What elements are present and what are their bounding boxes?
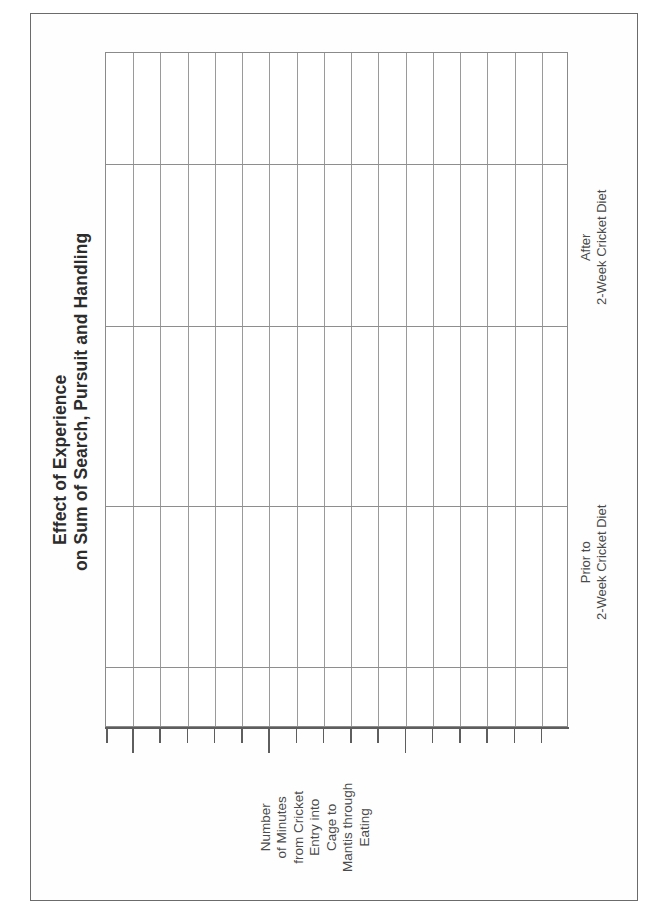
screenshot-page: Effect of Experience on Sum of Search, P…	[0, 0, 668, 920]
horizontal-gridline	[106, 667, 567, 668]
vertical-gridline	[515, 53, 516, 726]
chart-title-line-1: Effect of Experience	[50, 233, 71, 545]
value-axis-line	[105, 727, 569, 729]
chart-title-line-2: on Sum of Search, Pursuit and Handling	[71, 233, 92, 571]
value-axis-title-line-1: Number	[258, 783, 274, 872]
value-axis-title-line-4: Entry into	[307, 783, 323, 872]
axis-tick-minor	[459, 729, 461, 743]
vertical-gridline	[215, 53, 216, 726]
vertical-gridline	[160, 53, 161, 726]
category-label-prior: Prior to 2-Week Cricket Diet	[578, 505, 610, 620]
chart-title: Effect of Experience on Sum of Search, P…	[50, 233, 93, 545]
horizontal-gridline	[106, 164, 567, 165]
category-label-after-line-1: After	[578, 190, 594, 305]
axis-tick-major	[268, 729, 270, 753]
axis-tick-major	[132, 729, 134, 753]
axis-tick-minor	[159, 729, 161, 743]
vertical-gridline	[542, 53, 543, 726]
axis-tick-minor	[187, 729, 189, 743]
value-axis-title-line-7: Eating	[357, 783, 373, 872]
axis-tick-minor	[350, 729, 352, 743]
axis-tick-minor	[323, 729, 325, 743]
horizontal-gridline	[106, 506, 567, 507]
vertical-gridline	[242, 53, 243, 726]
vertical-gridline	[297, 53, 298, 726]
axis-tick-minor	[514, 729, 516, 743]
category-label-prior-line-2: 2-Week Cricket Diet	[594, 505, 610, 620]
value-axis-title-line-5: Cage to	[324, 783, 340, 872]
value-axis-title-line-3: from Cricket	[291, 783, 307, 872]
axis-tick-minor	[377, 729, 379, 743]
axis-tick-minor	[241, 729, 243, 743]
axis-tick-minor	[432, 729, 434, 743]
vertical-gridline	[487, 53, 488, 726]
category-label-prior-line-1: Prior to	[578, 505, 594, 620]
vertical-gridline	[269, 53, 270, 726]
chart-plot-area	[105, 52, 568, 727]
vertical-gridline	[351, 53, 352, 726]
axis-tick-major	[405, 729, 407, 753]
value-axis-title-line-2: of Minutes	[274, 783, 290, 872]
axis-tick-minor	[214, 729, 216, 743]
vertical-gridline	[324, 53, 325, 726]
value-axis-title-line-6: Mantis through	[340, 783, 356, 872]
vertical-gridline	[433, 53, 434, 726]
value-axis-title: Number of Minutes from Cricket Entry int…	[258, 783, 373, 872]
category-label-after-line-2: 2-Week Cricket Diet	[594, 190, 610, 305]
axis-tick-minor	[106, 729, 108, 743]
vertical-gridline	[378, 53, 379, 726]
category-label-after: After 2-Week Cricket Diet	[578, 190, 610, 305]
vertical-gridline	[188, 53, 189, 726]
axis-tick-minor	[296, 729, 298, 743]
axis-tick-minor	[541, 729, 543, 743]
horizontal-gridline	[106, 326, 567, 327]
vertical-gridline	[406, 53, 407, 726]
vertical-gridline	[133, 53, 134, 726]
vertical-gridline	[460, 53, 461, 726]
axis-tick-minor	[486, 729, 488, 743]
